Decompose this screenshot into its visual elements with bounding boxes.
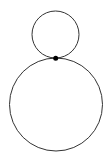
diagram-canvas <box>0 0 109 160</box>
small-circle <box>32 11 79 58</box>
tangent-point <box>53 56 58 61</box>
large-circle <box>10 58 103 151</box>
